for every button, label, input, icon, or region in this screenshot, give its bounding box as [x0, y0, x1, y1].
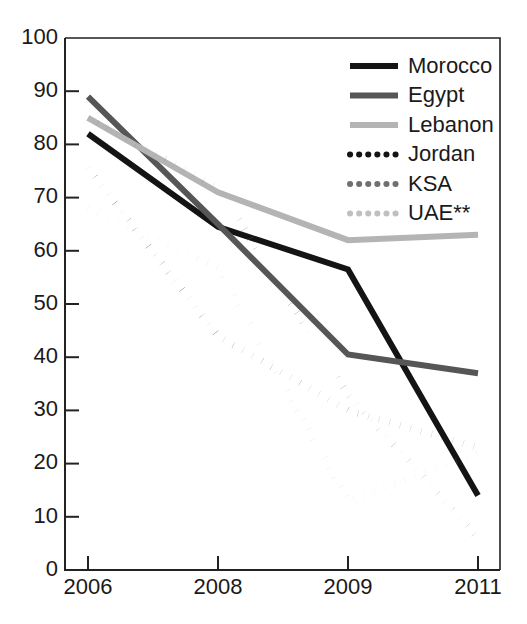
y-tick-label-50: 50: [34, 290, 58, 315]
legend-label-lebanon: Lebanon: [408, 112, 494, 137]
x-axis-labels: 2006 2008 2009 2011: [64, 574, 502, 599]
x-tick-label-2008: 2008: [194, 574, 243, 599]
y-tick-label-0: 0: [46, 556, 58, 581]
x-tick-label-2006: 2006: [64, 574, 113, 599]
y-tick-label-70: 70: [34, 183, 58, 208]
line-chart: 100 90 80 70 60 50 40 30 20 10 0 2006 20…: [0, 0, 527, 624]
x-tick-label-2009: 2009: [324, 574, 373, 599]
legend-label-ksa: KSA: [408, 171, 452, 196]
legend-label-uae: UAE**: [408, 200, 471, 225]
y-tick-label-60: 60: [34, 237, 58, 262]
chart-legend: MoroccoEgyptLebanonJordanKSAUAE**: [350, 53, 494, 226]
chart-canvas: 100 90 80 70 60 50 40 30 20 10 0 2006 20…: [0, 0, 527, 624]
x-tick-marks: [88, 556, 478, 570]
y-axis-labels: 100 90 80 70 60 50 40 30 20 10 0: [21, 24, 58, 581]
y-tick-label-40: 40: [34, 343, 58, 368]
legend-label-egypt: Egypt: [408, 82, 464, 107]
y-tick-label-10: 10: [34, 503, 58, 528]
y-tick-label-90: 90: [34, 77, 58, 102]
y-tick-marks: [65, 91, 79, 517]
y-tick-label-80: 80: [34, 130, 58, 155]
y-tick-label-20: 20: [34, 449, 58, 474]
y-tick-label-30: 30: [34, 396, 58, 421]
y-tick-label-100: 100: [21, 24, 58, 49]
x-tick-label-2011: 2011: [454, 574, 501, 599]
legend-label-jordan: Jordan: [408, 141, 475, 166]
legend-label-morocco: Morocco: [408, 53, 492, 78]
series-line-uae: [88, 208, 478, 501]
